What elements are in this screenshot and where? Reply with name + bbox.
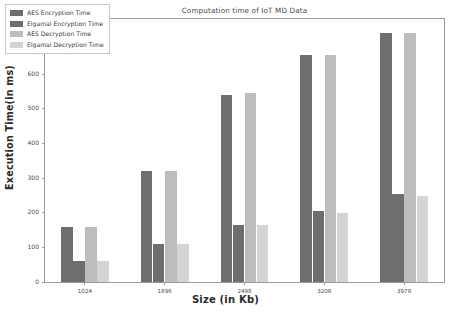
legend-swatch-icon bbox=[10, 21, 23, 27]
bar bbox=[300, 55, 312, 282]
legend-swatch-icon bbox=[10, 42, 23, 48]
bar bbox=[392, 194, 404, 282]
legend-label: AES Decryption Time bbox=[27, 31, 91, 37]
legend-label: Elgamal Decryption Time bbox=[27, 42, 104, 48]
plot-area bbox=[45, 19, 444, 282]
y-tick-label: 0 bbox=[35, 278, 39, 285]
bar bbox=[97, 261, 109, 282]
y-tick-label: 100 bbox=[28, 243, 39, 250]
bar bbox=[417, 196, 429, 283]
y-tick-label: 400 bbox=[28, 139, 39, 146]
y-tick-mark bbox=[42, 282, 45, 283]
x-tick-mark bbox=[164, 282, 165, 285]
bar bbox=[177, 244, 189, 282]
bar bbox=[380, 33, 392, 282]
y-tick-label: 200 bbox=[28, 208, 39, 215]
y-tick-label: 500 bbox=[28, 104, 39, 111]
chart-figure: Computation time of IoT MD Data Executio… bbox=[0, 0, 451, 320]
bar bbox=[257, 225, 269, 282]
y-tick-mark bbox=[42, 108, 45, 109]
plot-frame: 0100200300400500600700102418962498320839… bbox=[44, 18, 445, 283]
y-tick-mark bbox=[42, 74, 45, 75]
legend-label: Elgamal Encryption Time bbox=[27, 21, 103, 27]
legend-item: Elgamal Decryption Time bbox=[10, 40, 104, 51]
bar bbox=[221, 95, 233, 282]
legend-swatch-icon bbox=[10, 31, 23, 37]
legend-item: Elgamal Encryption Time bbox=[10, 19, 104, 30]
bar bbox=[313, 211, 325, 282]
bar bbox=[404, 33, 416, 282]
bar bbox=[245, 93, 257, 282]
x-tick-mark bbox=[244, 282, 245, 285]
x-tick-mark bbox=[84, 282, 85, 285]
bar bbox=[85, 227, 97, 282]
bar bbox=[61, 227, 73, 282]
y-tick-label: 300 bbox=[28, 174, 39, 181]
legend-item: AES Decryption Time bbox=[10, 29, 104, 40]
y-tick-mark bbox=[42, 212, 45, 213]
chart-legend: AES Encryption TimeElgamal Encryption Ti… bbox=[5, 4, 110, 54]
y-tick-label: 600 bbox=[28, 70, 39, 77]
bar bbox=[165, 171, 177, 282]
legend-swatch-icon bbox=[10, 10, 23, 16]
x-axis-label: Size (in Kb) bbox=[0, 294, 451, 305]
x-tick-mark bbox=[324, 282, 325, 285]
y-tick-mark bbox=[42, 247, 45, 248]
bar bbox=[73, 261, 85, 282]
bar bbox=[337, 213, 349, 282]
bar bbox=[141, 171, 153, 282]
y-tick-mark bbox=[42, 143, 45, 144]
y-tick-mark bbox=[42, 178, 45, 179]
bar bbox=[153, 244, 165, 282]
x-tick-mark bbox=[404, 282, 405, 285]
bar bbox=[233, 225, 245, 282]
bar bbox=[325, 55, 337, 282]
legend-item: AES Encryption Time bbox=[10, 8, 104, 19]
legend-label: AES Encryption Time bbox=[27, 10, 90, 16]
